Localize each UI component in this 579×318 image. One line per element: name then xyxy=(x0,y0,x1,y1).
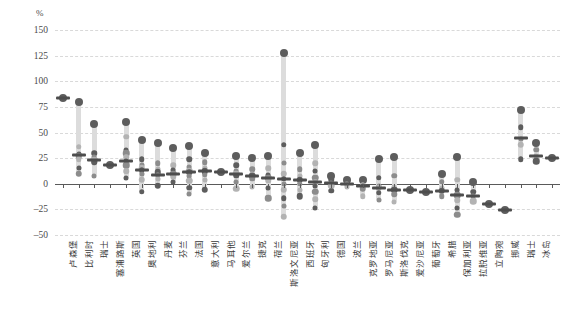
x-axis-category-labels: 卢森堡比利时瑞士塞浦路斯英国奥地利丹麦芬兰法国意大利马耳他爱尔兰捷克荷兰斯洛文尼… xyxy=(55,237,560,318)
x-category-label: 塞浦路斯 xyxy=(113,239,125,277)
x-category-label: 奥地利 xyxy=(145,239,157,268)
data-point xyxy=(76,144,82,150)
x-tick xyxy=(347,184,348,188)
x-category-label: 马耳他 xyxy=(224,239,236,268)
data-point xyxy=(90,120,98,128)
x-tick xyxy=(63,184,64,188)
data-point xyxy=(517,142,524,149)
data-point xyxy=(234,163,240,169)
data-point xyxy=(518,125,524,131)
data-point xyxy=(202,159,208,165)
chart-root: % 1501251007550250–25–50 卢森堡比利时瑞士塞浦路斯英国奥… xyxy=(0,0,579,318)
gridline xyxy=(55,235,560,236)
median-marker xyxy=(498,209,512,212)
data-point xyxy=(123,162,130,169)
series-group xyxy=(55,30,71,235)
series-group xyxy=(355,30,371,235)
data-point xyxy=(281,204,286,209)
x-category-label: 立陶宛 xyxy=(492,239,504,268)
series-group xyxy=(434,30,450,235)
data-point xyxy=(360,193,366,199)
x-tick xyxy=(236,184,237,188)
data-point xyxy=(281,213,288,220)
y-axis-tick-labels: 1501251007550250–25–50 xyxy=(0,30,52,235)
x-tick xyxy=(457,184,458,188)
series-group xyxy=(528,30,544,235)
median-marker xyxy=(403,188,417,191)
series-group xyxy=(465,30,481,235)
median-marker xyxy=(308,180,322,183)
median-marker xyxy=(387,188,401,191)
y-tick-label: 100 xyxy=(34,76,48,86)
data-point xyxy=(265,166,271,172)
data-point xyxy=(533,158,540,165)
data-point xyxy=(296,149,304,157)
x-category-label: 爱沙尼亚 xyxy=(413,239,425,277)
x-tick xyxy=(489,184,490,188)
data-point xyxy=(187,192,192,197)
median-marker xyxy=(529,155,543,158)
series-group xyxy=(402,30,418,235)
x-tick xyxy=(142,184,143,188)
data-point xyxy=(154,139,162,147)
data-point xyxy=(248,154,256,162)
data-point xyxy=(139,156,145,162)
data-point xyxy=(392,200,397,205)
x-category-label: 罗马尼亚 xyxy=(382,239,394,277)
data-point xyxy=(186,156,192,162)
data-point xyxy=(375,155,383,163)
x-tick xyxy=(173,184,174,188)
x-category-label: 丹麦 xyxy=(161,239,173,258)
x-category-label: 克罗地亚 xyxy=(366,239,378,277)
x-category-label: 瑞士 xyxy=(97,239,109,258)
series-group xyxy=(87,30,103,235)
data-point xyxy=(313,169,318,174)
data-point xyxy=(313,206,318,211)
data-point xyxy=(76,156,82,162)
median-marker xyxy=(293,178,307,181)
x-tick xyxy=(410,184,411,188)
median-marker xyxy=(56,96,70,99)
median-marker xyxy=(198,170,212,173)
data-point xyxy=(185,142,193,150)
series-group xyxy=(386,30,402,235)
x-category-label: 法国 xyxy=(192,239,204,258)
series-group xyxy=(544,30,560,235)
data-point xyxy=(155,161,161,167)
x-category-label: 葡萄牙 xyxy=(429,239,441,268)
data-point xyxy=(518,156,524,162)
data-point xyxy=(454,211,461,218)
data-point xyxy=(280,49,288,57)
data-point xyxy=(169,144,177,152)
median-marker xyxy=(450,194,464,197)
x-tick xyxy=(536,184,537,188)
data-point xyxy=(75,98,83,106)
x-tick xyxy=(315,184,316,188)
series-group xyxy=(244,30,260,235)
series-group xyxy=(118,30,134,235)
data-point xyxy=(517,106,525,114)
data-point xyxy=(297,187,302,192)
data-point xyxy=(455,177,461,183)
series-group xyxy=(513,30,529,235)
plot-area xyxy=(55,30,560,235)
series-group xyxy=(292,30,308,235)
x-tick xyxy=(442,184,443,188)
data-point xyxy=(92,173,97,178)
x-tick xyxy=(505,184,506,188)
series-group xyxy=(150,30,166,235)
series-group xyxy=(371,30,387,235)
median-marker xyxy=(103,164,117,167)
x-tick xyxy=(252,184,253,188)
x-tick xyxy=(426,184,427,188)
x-tick xyxy=(205,184,206,188)
x-category-label: 瑞士 xyxy=(524,239,536,258)
series-group xyxy=(497,30,513,235)
median-marker xyxy=(545,157,559,160)
data-point xyxy=(392,173,398,179)
y-tick-label: 150 xyxy=(34,25,48,35)
median-marker xyxy=(119,160,133,163)
data-point xyxy=(390,153,398,161)
y-tick-label: 125 xyxy=(34,51,48,61)
data-point xyxy=(123,169,129,175)
